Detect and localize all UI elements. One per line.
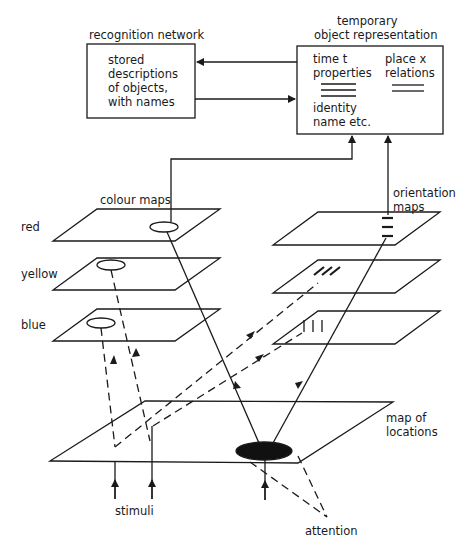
recognition-network-content: stored descriptions of objects, with nam…	[108, 53, 178, 109]
recognition-line-2: descriptions	[108, 67, 178, 81]
orientation-map-vertical	[273, 311, 440, 344]
orientation-map-horizontal	[273, 212, 440, 245]
yellow-label: yellow	[21, 267, 58, 281]
place-x-label: place x	[385, 52, 426, 66]
relations-lines	[392, 85, 424, 91]
recognition-line-3: of objects,	[108, 81, 178, 95]
dashed-feature-links	[101, 270, 327, 517]
blue-feature-ellipse	[87, 318, 115, 328]
temporary-title-line-2: object representation	[314, 28, 437, 42]
time-t-label: time t	[313, 52, 347, 66]
map-of-locations	[50, 401, 393, 463]
recognition-line-4: with names	[108, 95, 178, 109]
colour-maps-label: colour maps	[100, 193, 171, 207]
properties-lines	[321, 84, 356, 96]
orientation-maps-label-line-1: orientation	[393, 186, 456, 200]
horizontal-bars-feature	[382, 218, 393, 236]
diagram-canvas	[0, 0, 465, 551]
attention-spotlight	[236, 442, 292, 460]
yellow-colour-map	[53, 258, 220, 290]
relations-label: relations	[385, 66, 435, 80]
red-feature-ellipse	[150, 222, 178, 232]
map-of-locations-label-line-1: map of	[386, 411, 426, 425]
red-label: red	[21, 220, 40, 234]
recognition-network-title: recognition network	[89, 28, 204, 42]
orientation-maps-label-line-2: maps	[393, 200, 425, 214]
map-of-locations-label-line-2: locations	[386, 425, 438, 439]
blue-label: blue	[21, 318, 46, 332]
name-etc-label: name etc.	[313, 115, 371, 129]
identity-label: identity	[313, 101, 357, 115]
temporary-title-line-1: temporary	[337, 14, 397, 28]
orientation-map-diagonal	[273, 260, 440, 293]
diagonal-bars-feature	[314, 267, 340, 275]
yellow-feature-ellipse	[97, 260, 125, 270]
vertical-bars-feature	[304, 320, 322, 332]
properties-label: properties	[313, 66, 372, 80]
stimuli-label: stimuli	[115, 504, 154, 518]
attention-label: attention	[305, 524, 357, 538]
blue-colour-map	[53, 309, 220, 341]
red-colour-map	[53, 209, 220, 241]
recognition-line-1: stored	[108, 53, 178, 67]
